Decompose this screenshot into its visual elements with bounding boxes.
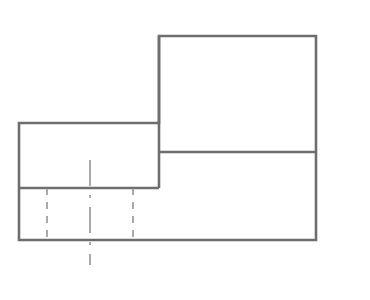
- technical-drawing: [0, 0, 370, 300]
- outer-profile-outline: [19, 36, 316, 240]
- visible-lines-layer: [19, 36, 316, 240]
- drawing-canvas: [0, 0, 370, 300]
- visible-internal-lines-group: [19, 36, 316, 188]
